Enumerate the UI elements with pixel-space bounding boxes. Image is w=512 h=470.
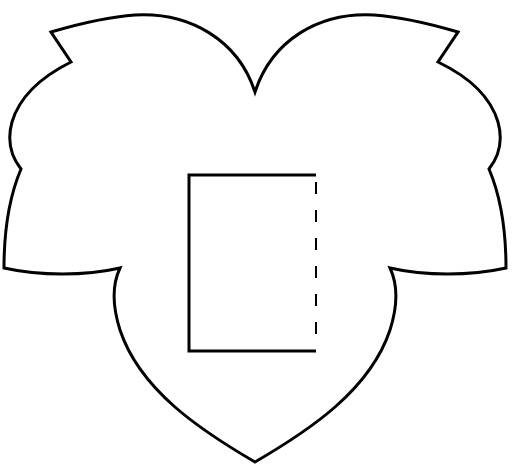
leaf-diagram xyxy=(0,0,512,470)
inner-rectangle xyxy=(189,175,316,351)
rectangle-solid-sides xyxy=(189,175,316,351)
figure-canvas xyxy=(0,0,512,470)
leaf-outline xyxy=(4,15,506,462)
